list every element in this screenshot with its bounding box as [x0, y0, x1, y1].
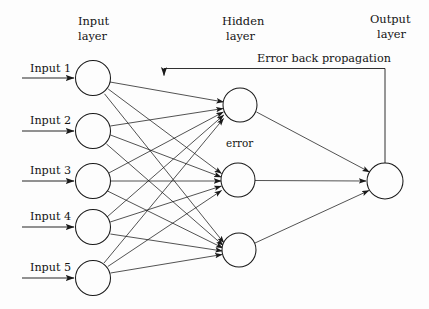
- input-node-4[interactable]: [76, 210, 111, 245]
- input-labels-group: Input 1 Input 2 Input 3 Input 4 Input 5: [30, 62, 71, 274]
- backprop-path: [164, 69, 385, 164]
- input-label-1: Input 1: [30, 62, 71, 75]
- input-node-5[interactable]: [76, 261, 111, 296]
- edge-i2-h3: [107, 144, 224, 246]
- neural-network-diagram: Input layer Hidden layer Output layer In…: [0, 0, 429, 309]
- input-node-2[interactable]: [76, 114, 111, 149]
- edge-i1-h3: [105, 94, 225, 243]
- input-arrows-group: [22, 78, 74, 278]
- hidden-nodes-group: [221, 88, 257, 267]
- hidden-layer-title-line1: Hidden: [222, 14, 265, 28]
- edge-i5-h2: [108, 191, 222, 267]
- input-label-5: Input 5: [30, 261, 71, 274]
- hidden-node-1[interactable]: [223, 88, 257, 122]
- edge-i2-h1: [110, 109, 223, 127]
- input-to-hidden-edges: [104, 82, 224, 273]
- input-layer-title-line1: Input: [78, 14, 109, 28]
- input-node-1[interactable]: [76, 61, 111, 96]
- edge-i4-h1: [107, 115, 224, 217]
- input-label-2: Input 2: [30, 114, 71, 127]
- backprop-label: Error back propagation: [257, 52, 391, 65]
- input-label-4: Input 4: [30, 210, 71, 223]
- input-layer-title-line2: layer: [78, 29, 108, 43]
- backprop-arrow: [164, 69, 385, 164]
- edge-h3-out: [255, 191, 369, 244]
- output-nodes-group: [367, 163, 403, 199]
- edge-h1-out: [257, 112, 370, 172]
- hidden-to-output-edges: [255, 112, 370, 243]
- output-layer-title-line2: layer: [377, 27, 407, 41]
- edge-h2-out: [255, 181, 366, 182]
- input-label-3: Input 3: [30, 164, 71, 177]
- input-node-3[interactable]: [76, 164, 111, 199]
- output-layer-title-line1: Output: [370, 12, 411, 26]
- output-node-1[interactable]: [367, 163, 403, 199]
- edge-i4-h2: [110, 186, 221, 222]
- edge-i1-h1: [110, 82, 224, 102]
- input-nodes-group: [76, 61, 111, 296]
- edge-i5-h3: [111, 255, 223, 274]
- edge-i4-h3: [110, 234, 222, 251]
- error-label: error: [226, 137, 253, 149]
- hidden-node-3[interactable]: [222, 233, 256, 267]
- edge-i3-h3: [108, 191, 224, 248]
- layer-titles: Input layer Hidden layer Output layer: [78, 12, 411, 43]
- hidden-layer-title-line2: layer: [226, 29, 256, 43]
- network-graphic: Input layer Hidden layer Output layer In…: [0, 0, 429, 309]
- hidden-node-2[interactable]: [221, 163, 255, 197]
